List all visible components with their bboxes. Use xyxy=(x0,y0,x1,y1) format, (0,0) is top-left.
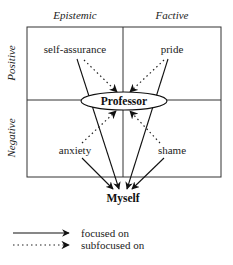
row-header-positive: Positive xyxy=(5,45,17,82)
column-header-epistemic: Epistemic xyxy=(52,9,96,21)
professor-label: Professor xyxy=(101,95,147,107)
cell-self-assurance: self-assurance xyxy=(44,43,106,55)
row-header-negative: Negative xyxy=(5,118,17,158)
cell-anxiety: anxiety xyxy=(59,144,92,156)
myself-label: Myself xyxy=(106,192,139,205)
cell-pride: pride xyxy=(161,43,184,55)
legend-subfocused-label: subfocused on xyxy=(81,239,145,251)
legend: focused on subfocused on xyxy=(13,227,145,251)
cell-shame: shame xyxy=(158,144,186,156)
legend-focused-label: focused on xyxy=(81,227,129,239)
column-header-factive: Factive xyxy=(155,9,189,21)
emotion-focus-diagram: Epistemic Factive Positive Negative Prof… xyxy=(0,0,233,265)
